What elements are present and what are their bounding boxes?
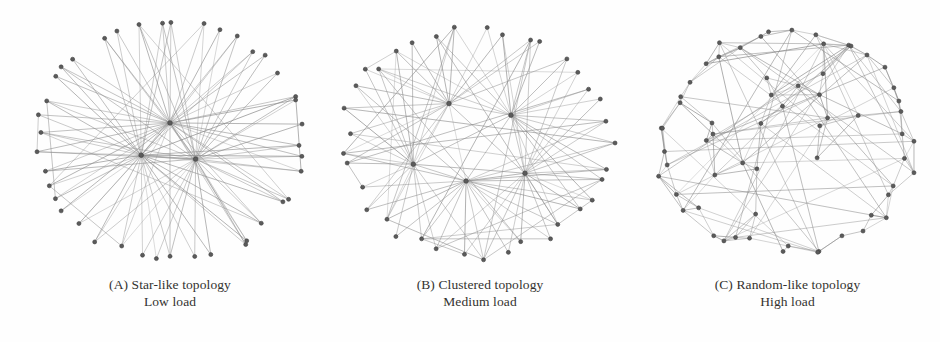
graph-edge [413, 164, 421, 239]
graph-edge [888, 173, 914, 195]
graph-edge [466, 181, 551, 239]
graph-node [604, 167, 608, 171]
graph-node [300, 154, 304, 158]
graph-edge [413, 27, 454, 164]
caption-panel-b-load: Medium load [325, 293, 635, 310]
graph-edge [379, 69, 578, 72]
graph-edge [422, 239, 465, 255]
graph-node [47, 184, 51, 188]
graph-edge [750, 118, 828, 238]
graph-node [169, 20, 173, 24]
graph-edge [659, 46, 851, 176]
graph-node [39, 130, 43, 134]
graph-node [297, 143, 301, 147]
graph-node [780, 104, 784, 108]
graph-edge [824, 44, 914, 141]
graph-edge [379, 69, 511, 115]
graph-edge [706, 67, 885, 140]
graph-edge [170, 123, 302, 124]
graph-edge [484, 179, 603, 259]
graph-node [120, 244, 124, 248]
graph-node [420, 237, 424, 241]
clustered-topology-svg [325, 12, 635, 270]
graph-edge [818, 236, 842, 252]
graph-node [59, 65, 63, 69]
graph-edge [886, 186, 893, 218]
graph-node [251, 50, 255, 54]
graph-node [796, 84, 800, 88]
graph-node [822, 42, 826, 46]
graph-node [711, 132, 715, 136]
graph-edge [343, 104, 449, 154]
graph-node [36, 113, 40, 117]
graph-node [590, 198, 594, 202]
graph-node [826, 116, 830, 120]
graph-node [840, 234, 844, 238]
graph-edge [45, 155, 141, 171]
graph-node [202, 21, 206, 25]
graph-edge [422, 181, 466, 239]
graph-edge [690, 57, 719, 83]
graph-node [786, 244, 790, 248]
caption-panel-c-label: (C) Random-like topology [635, 276, 940, 293]
graph-node [865, 53, 869, 57]
graph-edge [387, 164, 413, 219]
graph-edge [41, 123, 170, 133]
graph-hub-node [411, 162, 416, 167]
graph-edge [683, 175, 715, 210]
graph-node [681, 208, 685, 212]
graph-edge [396, 51, 511, 115]
graph-edge [37, 115, 38, 152]
caption-panel-a: (A) Star-like topology Low load [10, 276, 330, 310]
graph-edge [296, 97, 302, 172]
graph-edge [680, 103, 712, 123]
graph-node [679, 95, 683, 99]
graph-node [657, 174, 661, 178]
graph-star-topology [10, 12, 330, 270]
graph-node [342, 106, 346, 110]
graph-node [565, 57, 569, 61]
graph-node [717, 41, 721, 45]
graph-node [781, 249, 785, 253]
graph-node [587, 87, 591, 91]
graph-edge [771, 45, 848, 95]
graph-hub-node [509, 113, 514, 118]
graph-node [815, 156, 819, 160]
random-topology-svg [635, 12, 940, 270]
graph-node [168, 254, 172, 258]
graph-node [137, 23, 141, 27]
graph-node [259, 221, 263, 225]
graph-node [912, 171, 916, 175]
graph-edge [662, 103, 680, 128]
graph-edge [680, 82, 690, 102]
graph-node [697, 206, 701, 210]
graph-edge [396, 51, 449, 103]
graph-node [71, 57, 75, 61]
graph-node [767, 30, 771, 34]
graph-hub-node [139, 153, 144, 158]
graph-edge [413, 164, 436, 249]
graph-node [77, 222, 81, 226]
graph-edge [820, 88, 894, 126]
graph-edge [436, 179, 602, 248]
panel-random-topology: (C) Random-like topology High load [635, 0, 940, 342]
graph-edge [699, 208, 714, 236]
graph-edge [690, 48, 740, 83]
graph-node [549, 237, 553, 241]
graph-node [598, 97, 602, 101]
graph-node [115, 29, 119, 33]
graph-node [713, 173, 717, 177]
graph-node [519, 240, 523, 244]
graph-node [385, 217, 389, 221]
graph-node [218, 28, 222, 32]
graph-node [361, 185, 365, 189]
graph-node [193, 254, 197, 258]
graph-edge [659, 176, 684, 210]
node-layer [341, 25, 617, 262]
graph-node [755, 167, 759, 171]
graph-node [748, 236, 752, 240]
graph-edge [719, 43, 823, 44]
graph-edge [681, 82, 690, 96]
graph-edge [871, 195, 888, 215]
graph-edge [347, 163, 362, 187]
